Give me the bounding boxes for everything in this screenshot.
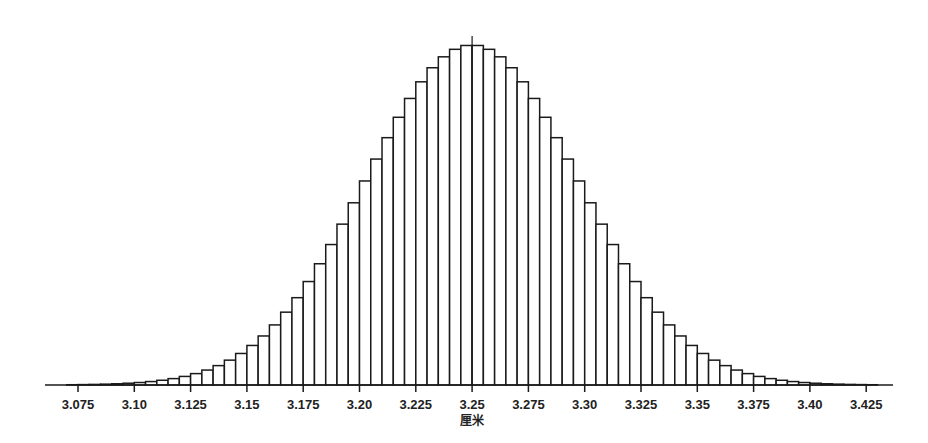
histogram-bar	[540, 117, 551, 385]
histogram-bar	[450, 49, 461, 385]
histogram-bar	[551, 138, 562, 385]
histogram-bar	[596, 224, 607, 385]
histogram-bar	[292, 298, 303, 385]
histogram-bar	[742, 374, 753, 385]
histogram-bar	[224, 360, 235, 385]
histogram-bar	[416, 82, 427, 385]
x-tick-label: 3.075	[62, 397, 95, 412]
histogram-bar	[686, 345, 697, 385]
histogram-bar	[472, 45, 483, 385]
x-tick-label: 3.425	[850, 397, 883, 412]
x-tick-label: 3.10	[122, 397, 147, 412]
x-tick-label: 3.175	[287, 397, 320, 412]
histogram-bar	[720, 366, 731, 385]
histogram-bar	[337, 224, 348, 385]
histogram-bar	[483, 49, 494, 385]
histogram-bar	[281, 312, 292, 385]
histogram-bar	[303, 282, 314, 385]
histogram-bar	[506, 68, 517, 385]
histogram-bar	[269, 325, 280, 385]
histogram-bar	[191, 374, 202, 385]
histogram-bar	[371, 159, 382, 385]
histogram-bar	[213, 366, 224, 385]
histogram-bar	[528, 98, 539, 385]
histogram-bar	[607, 245, 618, 385]
histogram-bar	[179, 376, 190, 385]
histogram-bar	[731, 370, 742, 385]
histogram-bar	[517, 82, 528, 385]
histogram-bar	[314, 264, 325, 385]
x-tick-label: 3.225	[400, 397, 433, 412]
histogram-bar	[202, 370, 213, 385]
x-tick-label: 3.15	[234, 397, 259, 412]
histogram-bar	[754, 376, 765, 385]
histogram-bar	[427, 68, 438, 385]
histogram-bar	[664, 325, 675, 385]
histogram-bar	[675, 336, 686, 385]
histogram-bar	[652, 312, 663, 385]
x-tick-label: 3.20	[347, 397, 372, 412]
histogram-bar	[326, 245, 337, 385]
x-axis-title: 厘米	[460, 413, 485, 428]
histogram-bar	[405, 98, 416, 385]
histogram-bar	[573, 181, 584, 385]
histogram-bar	[630, 282, 641, 385]
histogram-bar	[236, 353, 247, 385]
histogram-bar	[641, 298, 652, 385]
histogram-bar	[360, 181, 371, 385]
histogram-bar	[709, 360, 720, 385]
x-tick-label: 3.30	[572, 397, 597, 412]
x-tick-label: 3.25	[459, 397, 484, 412]
histogram-bar	[562, 159, 573, 385]
x-tick-label: 3.35	[685, 397, 710, 412]
histogram-bar	[585, 203, 596, 385]
histogram-bar	[765, 379, 776, 385]
histogram-bar	[382, 138, 393, 385]
histogram-bar	[247, 345, 258, 385]
histogram-bar	[438, 57, 449, 385]
x-tick-label: 3.275	[512, 397, 545, 412]
histogram-bar	[618, 264, 629, 385]
histogram-bar	[168, 379, 179, 385]
histogram-chart: 3.0753.103.1253.153.1753.203.2253.253.27…	[0, 0, 928, 443]
histogram-bar	[393, 117, 404, 385]
x-tick-label: 3.40	[797, 397, 822, 412]
histogram-bar	[258, 336, 269, 385]
x-axis-ticks: 3.0753.103.1253.153.1753.203.2253.253.27…	[62, 385, 883, 412]
x-tick-label: 3.125	[174, 397, 207, 412]
histogram-bar	[495, 57, 506, 385]
histogram-bar	[461, 45, 472, 385]
x-tick-label: 3.375	[737, 397, 770, 412]
histogram-bar	[348, 203, 359, 385]
histogram-bar	[697, 353, 708, 385]
x-tick-label: 3.325	[625, 397, 658, 412]
